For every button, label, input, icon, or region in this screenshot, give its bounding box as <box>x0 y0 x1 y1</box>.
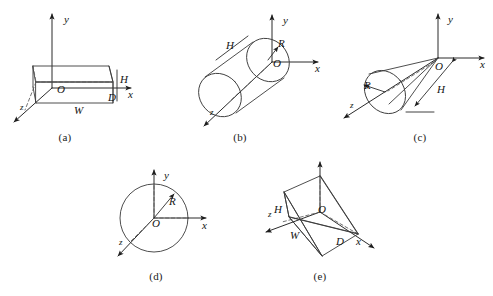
box-height-label: H <box>120 74 128 85</box>
figure-canvas: y x z O H W D (a) <box>0 0 493 296</box>
panel-pyramid: y x z O H W D <box>252 160 422 270</box>
cylinder-z-axis-label: z <box>210 108 214 117</box>
cylinder-side-lower <box>236 78 284 113</box>
pyramid-z-axis-label: z <box>268 210 272 219</box>
cylinder-radius-label: R <box>278 38 285 49</box>
pyramid-depth-label: D <box>336 236 344 247</box>
cone-drawing <box>322 0 493 130</box>
cone-z-axis-label: z <box>350 101 354 110</box>
cone-slant-lower <box>401 58 438 110</box>
cylinder-far-cap <box>190 65 251 126</box>
caption-b: (b) <box>220 131 260 143</box>
panel-box: y x z O H W D <box>0 0 170 130</box>
sphere-radius-label: R <box>169 196 176 207</box>
pyramid-drawing <box>252 160 422 270</box>
box-depth-label: D <box>108 92 116 103</box>
cone-center-line <box>388 62 434 91</box>
caption-d: (d) <box>136 270 176 282</box>
cylinder-drawing <box>160 0 335 130</box>
caption-e: (e) <box>300 270 340 282</box>
box-top-face <box>33 66 113 82</box>
cone-slant-inner <box>389 58 438 104</box>
pyramid-height-label: H <box>274 204 282 215</box>
cylinder-origin-label: O <box>273 58 281 69</box>
box-y-axis-label: y <box>64 14 69 25</box>
pyramid-origin-label: O <box>318 204 326 215</box>
pyramid-width-label: W <box>290 230 299 241</box>
cylinder-y-axis-label: y <box>283 15 288 26</box>
box-origin-label: O <box>57 84 65 95</box>
cylinder-x-axis-label: x <box>315 63 320 74</box>
box-x-axis-label: x <box>128 89 133 100</box>
caption-c: (c) <box>400 131 440 143</box>
panel-cylinder: y x z O R H <box>160 0 335 130</box>
cylinder-height-label: H <box>226 40 234 51</box>
sphere-origin-label: O <box>152 218 160 229</box>
sphere-x-axis-label: x <box>202 220 207 231</box>
cylinder-center-line <box>230 66 268 101</box>
box-z-axis-label: z <box>20 103 24 112</box>
pyramid-hidden-x <box>320 212 358 234</box>
box-width-label: W <box>74 105 83 116</box>
caption-a: (a) <box>45 131 85 143</box>
panel-sphere: y x z O R <box>112 160 262 270</box>
cone-height-label: H <box>437 84 445 95</box>
pyramid-x-axis-label: x <box>356 236 361 247</box>
panel-cone: y x z O R H <box>322 0 493 130</box>
pyramid-bottom-face <box>289 217 358 256</box>
sphere-y-axis-label: y <box>164 170 169 181</box>
box-drawing <box>0 0 170 130</box>
cone-origin-label: O <box>435 61 443 72</box>
cone-y-axis-label: y <box>448 14 453 25</box>
sphere-z-axis-label: z <box>119 238 123 247</box>
cone-radius-label: R <box>364 80 371 91</box>
cone-x-axis-label: x <box>480 59 485 70</box>
sphere-drawing <box>112 160 262 270</box>
cone-z-axis <box>344 58 438 118</box>
